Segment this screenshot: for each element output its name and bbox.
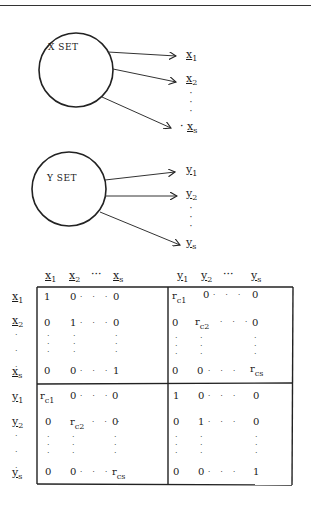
output-x1: x1 [186,48,197,63]
vdots: ··· [47,433,50,457]
vdots: ··· [254,334,257,358]
output-ys: ys [186,236,196,251]
cell: 1 [198,416,204,427]
vdots: ··· [175,433,178,457]
cell: 0 [203,289,209,300]
x-set-label: X SET [48,42,79,52]
arrow-x2 [113,69,176,82]
cell: 0 [252,289,258,300]
cell: 0 [173,416,179,427]
cell: 1 [173,390,179,401]
dots: · · · [208,418,239,426]
cell: 0 [198,390,204,401]
col-header-ys: ys [251,269,261,284]
row-header-ys: ys [12,466,22,481]
cell: 0 [45,466,51,477]
cell: 0 [45,416,51,427]
cell: 0 [44,317,50,328]
col-header-y2: y2 [201,269,212,284]
row-header-x2: x2 [12,314,23,329]
vdots: ··· [73,332,76,356]
cell-r-cs: rcs [250,363,263,378]
cell: 0 [172,365,178,376]
cell: 0 [253,390,259,401]
cell: 0 [198,466,204,477]
dots: · · · [213,291,244,299]
cell: 1 [70,317,76,328]
cell-r-c1: rc1 [172,290,186,305]
vdots: ··· [114,433,117,457]
arrow-xs [102,97,171,128]
cell-r-c2: rc2 [195,316,209,331]
x-outputs-vdots: ··· [189,89,193,116]
col-header-x-ellipsis: ··· [91,268,102,281]
y-outputs-vdots: ··· [189,204,193,231]
cell: 0 [70,390,76,401]
row-header-x1: x1 [12,290,23,305]
dots: · · · [80,468,111,476]
vdots: ··· [200,433,203,457]
vdots: ··· [175,334,178,358]
vdots: ··· [115,332,118,356]
row-header-xs: xs [12,365,22,380]
cell: 0 [70,466,76,477]
col-header-x1: x1 [45,269,56,284]
dots: · · · [80,293,111,301]
cell: 0 [173,466,179,477]
cell: 0 [112,390,118,401]
vdots: ··· [200,334,203,358]
cell: 0 [172,317,178,328]
vdots: ··· [255,433,258,457]
row-header-y2: y2 [12,415,23,430]
y-set-circle [32,152,106,226]
output-xs: · xs [180,120,197,135]
vdots: ··· [47,332,50,356]
output-x2: x2 [186,72,197,87]
dots: · · · [208,468,239,476]
arrow-x1 [108,52,176,56]
cell: 1 [253,466,259,477]
cell-r-cs: rcs [112,466,125,481]
cell-r-c2: rc2 [70,416,84,431]
cell: 0 [252,317,258,328]
cell: 0 [113,317,119,328]
row-header-y1: y1 [12,390,23,405]
dots: · · · [80,392,111,400]
dots: · · · [208,367,239,375]
cell-r-c1: rc1 [40,390,54,405]
dots: · · · [80,367,111,375]
cell: 0 [197,365,203,376]
cell: 0 [112,416,118,427]
dots: · · · [220,318,251,326]
dots: · · · [80,319,111,327]
y-set-label: Y SET [47,173,77,183]
arrow-ys [100,212,180,245]
col-header-x2: x2 [69,269,80,284]
dots: · · · [208,392,239,400]
arrow-y1 [105,172,175,180]
cell: 1 [44,291,50,302]
cell: 0 [70,365,76,376]
cell: 0 [253,416,259,427]
output-y2: y2 [186,187,197,202]
vdots: ··· [72,433,75,457]
dots: · · · [92,418,123,426]
cell: 0 [70,291,76,302]
col-header-y1: y1 [177,269,188,284]
col-header-xs: xs [113,269,123,284]
cell: 0 [113,291,119,302]
cell: 1 [113,365,119,376]
col-header-y-ellipsis: ··· [223,268,234,281]
output-y1: y1 [186,163,197,178]
cell: 0 [44,365,50,376]
